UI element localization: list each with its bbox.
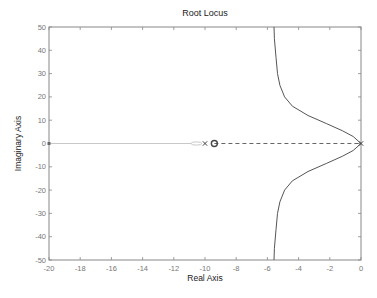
y-tick-label: 40: [38, 46, 46, 55]
y-tick-label: -30: [35, 209, 46, 218]
y-tick-label: -20: [35, 186, 46, 195]
chart-title: Root Locus: [182, 8, 228, 18]
x-tick-label: -8: [233, 264, 240, 273]
y-tick-label: -50: [35, 256, 46, 265]
plot-area: -20-18-16-14-12-10-8-6-4-20 50403020100-…: [35, 23, 363, 274]
x-tick-label: -10: [200, 264, 211, 273]
x-axis-label: Real Axis: [187, 273, 222, 283]
y-tick-label: 10: [38, 116, 46, 125]
upper-branch: [274, 27, 361, 144]
x-tick-label: -6: [264, 264, 271, 273]
x-axis-ticks: -20-18-16-14-12-10-8-6-4-20: [44, 27, 364, 273]
root-locus-figure: Root Locus -20-18-16-14-12-10-8-6-4-20 5…: [0, 0, 377, 298]
branch-start-marker: [48, 142, 51, 145]
x-tick-label: -20: [44, 264, 55, 273]
pole-x-icon: [203, 141, 207, 145]
x-tick-label: 0: [359, 264, 363, 273]
x-tick-label: -12: [168, 264, 179, 273]
y-tick-label: 50: [38, 23, 46, 32]
y-tick-label: 20: [38, 92, 46, 101]
x-tick-label: -2: [326, 264, 333, 273]
small-loop: [191, 142, 202, 145]
y-tick-label: 0: [42, 139, 46, 148]
x-tick-label: -4: [295, 264, 302, 273]
x-tick-label: -18: [75, 264, 86, 273]
x-tick-label: -16: [106, 264, 117, 273]
x-tick-label: -14: [137, 264, 148, 273]
y-tick-label: -40: [35, 232, 46, 241]
y-axis-label: Imaginary Axis: [13, 116, 23, 171]
y-tick-label: 30: [38, 69, 46, 78]
lower-branch: [274, 144, 361, 261]
y-tick-label: -10: [35, 162, 46, 171]
